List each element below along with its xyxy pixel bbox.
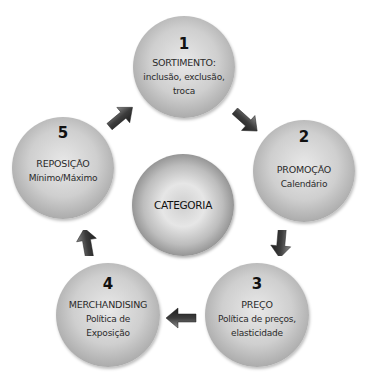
step-desc-line: Mínimo/Máximo (29, 171, 98, 185)
step-2-promocao: 2 PROMOÇÃO Calendário (253, 120, 355, 222)
arrow-up-right-icon (104, 104, 138, 130)
step-desc-line: Política de (86, 312, 130, 326)
step-title: REPOSIÇÃO (36, 157, 89, 171)
center-label: CATEGORIA (154, 199, 212, 211)
arrow-down-right-icon (229, 108, 263, 134)
step-5-reposicao: 5 REPOSIÇÃO Mínimo/Máximo (12, 117, 114, 219)
step-number: 2 (299, 129, 309, 145)
step-title: SORTIMENTO: (152, 56, 215, 70)
step-desc-line: Exposição (86, 326, 130, 340)
step-desc-line: inclusão, exclusão, (143, 70, 224, 84)
step-3-preco: 3 PREÇO Política de preços, elasticidade (205, 263, 309, 367)
center-categoria: CATEGORIA (132, 154, 234, 256)
step-number: 4 (103, 276, 113, 292)
step-number: 3 (252, 276, 262, 292)
category-management-cycle-diagram: 1 SORTIMENTO: inclusão, exclusão, troca … (0, 0, 366, 383)
step-desc-line: troca (173, 84, 195, 98)
arrow-left-icon (164, 305, 198, 331)
step-number: 5 (58, 125, 68, 141)
step-desc-line: elasticidade (231, 326, 283, 340)
step-title: PREÇO (241, 298, 272, 312)
arrow-down-icon (264, 230, 298, 256)
step-1-sortimento: 1 SORTIMENTO: inclusão, exclusão, troca (133, 16, 235, 118)
step-title: MERCHANDISING (69, 298, 148, 312)
step-desc-line: Política de preços, (218, 312, 296, 326)
step-4-merchandising: 4 MERCHANDISING Política de Exposição (56, 263, 160, 367)
step-title: PROMOÇÃO (277, 163, 331, 177)
step-desc-line: Calendário (281, 177, 327, 191)
step-number: 1 (179, 36, 189, 52)
arrow-up-icon (70, 230, 104, 256)
